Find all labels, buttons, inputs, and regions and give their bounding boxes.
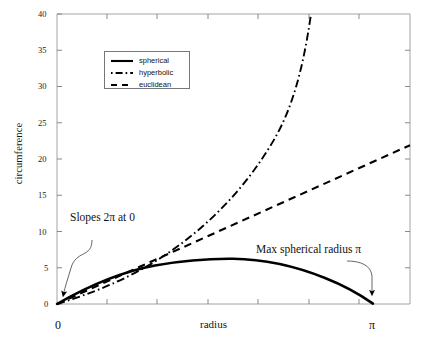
y-tick-label-40: 40 <box>38 9 47 19</box>
annotation-max-radius: Max spherical radius π <box>256 243 361 255</box>
chart-canvas <box>0 0 427 345</box>
top-faint-artifact <box>110 0 340 7</box>
legend-label-hyperbolic: hyperbolic <box>139 68 173 77</box>
chart-figure: 40 35 30 25 20 15 10 5 0 0 π circumferen… <box>0 0 427 345</box>
legend-item-spherical: spherical <box>109 55 189 66</box>
y-tick-label-30: 30 <box>38 81 47 91</box>
series-spherical <box>57 259 373 304</box>
max-radius-arrow <box>347 261 372 293</box>
legend-swatch-solid <box>109 56 135 66</box>
y-tick-label-0: 0 <box>44 299 48 309</box>
legend-swatch-dashed <box>109 80 135 90</box>
y-axis-title: circumference <box>13 104 24 204</box>
y-tick-label-35: 35 <box>38 45 47 55</box>
series-euclidean <box>57 145 410 304</box>
y-tick-label-25: 25 <box>38 118 47 128</box>
x-axis-title: radius <box>0 318 427 330</box>
legend-item-hyperbolic: hyperbolic <box>109 67 189 78</box>
y-tick-label-20: 20 <box>38 154 47 164</box>
legend-label-spherical: spherical <box>139 56 169 65</box>
chart-legend: spherical hyperbolic euclidean <box>104 51 190 89</box>
annotation-slopes: Slopes 2π at 0 <box>70 211 135 223</box>
legend-swatch-dash-dot <box>109 68 135 78</box>
legend-item-euclidean: euclidean <box>109 79 189 90</box>
legend-label-euclidean: euclidean <box>139 80 171 89</box>
y-tick-label-15: 15 <box>38 190 47 200</box>
y-tick-label-10: 10 <box>38 227 47 237</box>
y-tick-label-5: 5 <box>44 263 48 273</box>
slopes-arrow <box>64 240 93 294</box>
